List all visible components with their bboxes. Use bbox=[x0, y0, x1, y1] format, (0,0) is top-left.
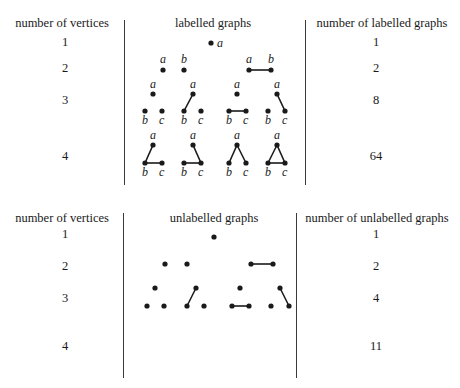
graph-edge bbox=[229, 145, 237, 163]
labelled-graph: abc bbox=[181, 128, 204, 179]
vertex-label: a bbox=[246, 52, 252, 66]
graph-vertex bbox=[229, 303, 234, 308]
graph-edge bbox=[237, 145, 246, 163]
vertex-label: a bbox=[190, 128, 196, 142]
vertex-label: c bbox=[282, 113, 288, 127]
vertex-label: b bbox=[181, 52, 187, 66]
unlabelled-graph bbox=[184, 285, 206, 308]
graph-vertex bbox=[286, 303, 291, 308]
graph-drawings: aabababcabcabcabcabcabcabcabc bbox=[0, 0, 460, 388]
graph-vertex bbox=[268, 303, 273, 308]
graph-edge bbox=[184, 94, 193, 111]
graph-vertex bbox=[234, 91, 239, 96]
vertex-label: a bbox=[217, 36, 223, 50]
unlabelled-graph bbox=[248, 261, 275, 266]
vertex-label: a bbox=[234, 77, 240, 91]
labelled-graph: abc bbox=[265, 77, 288, 127]
graph-edge bbox=[268, 145, 277, 163]
vertex-label: c bbox=[198, 165, 204, 179]
vertex-label: b bbox=[181, 113, 187, 127]
graph-edge bbox=[277, 145, 285, 163]
graph-edge bbox=[280, 288, 289, 306]
vertex-label: b bbox=[265, 113, 271, 127]
vertex-label: b bbox=[142, 113, 148, 127]
graph-vertex bbox=[270, 261, 275, 266]
graph-vertex bbox=[201, 303, 206, 308]
graph-vertex bbox=[184, 261, 189, 266]
labelled-graph: a bbox=[208, 36, 223, 50]
vertex-label: a bbox=[160, 52, 166, 66]
vertex-label: b bbox=[265, 165, 271, 179]
graph-vertex bbox=[246, 303, 251, 308]
labelled-graphs-layer: aabababcabcabcabcabcabcabcabc bbox=[142, 36, 288, 179]
graph-vertex bbox=[211, 234, 216, 239]
graph-vertex bbox=[190, 91, 195, 96]
vertex-label: c bbox=[282, 165, 288, 179]
vertex-label: a bbox=[150, 77, 156, 91]
graph-vertex bbox=[152, 285, 157, 290]
vertex-label: a bbox=[274, 77, 280, 91]
labelled-graph: ab bbox=[160, 52, 187, 73]
vertex-label: b bbox=[268, 52, 274, 66]
labelled-graph: abc bbox=[181, 77, 204, 127]
graph-edge bbox=[277, 94, 285, 111]
graph-vertex bbox=[237, 285, 242, 290]
vertex-label: a bbox=[234, 128, 240, 142]
vertex-label: c bbox=[243, 113, 249, 127]
graph-vertex bbox=[268, 67, 273, 72]
vertex-label: b bbox=[226, 165, 232, 179]
vertex-label: a bbox=[150, 128, 156, 142]
labelled-graph: abc bbox=[265, 128, 288, 179]
unlabelled-graph bbox=[144, 285, 166, 308]
vertex-label: c bbox=[159, 113, 165, 127]
vertex-label: b bbox=[226, 113, 232, 127]
graph-vertex bbox=[234, 142, 239, 147]
graph-vertex bbox=[190, 142, 195, 147]
graph-vertex bbox=[274, 142, 279, 147]
graph-vertex bbox=[248, 261, 253, 266]
labelled-graph: abc bbox=[226, 77, 249, 127]
graph-vertex bbox=[246, 67, 251, 72]
graph-vertex bbox=[150, 91, 155, 96]
graph-vertex bbox=[274, 91, 279, 96]
graph-vertex bbox=[150, 142, 155, 147]
graph-edge bbox=[145, 145, 153, 163]
vertex-label: c bbox=[198, 113, 204, 127]
graph-vertex bbox=[144, 303, 149, 308]
graph-vertex bbox=[184, 303, 189, 308]
graph-vertex bbox=[181, 67, 186, 72]
graph-vertex bbox=[208, 40, 213, 45]
vertex-label: a bbox=[190, 77, 196, 91]
graph-edge bbox=[193, 145, 201, 163]
vertex-label: b bbox=[181, 165, 187, 179]
vertex-label: c bbox=[159, 165, 165, 179]
vertex-label: a bbox=[274, 128, 280, 142]
labelled-graph: abc bbox=[142, 128, 165, 179]
labelled-graph: abc bbox=[142, 77, 165, 127]
graph-vertex bbox=[161, 303, 166, 308]
graph-vertex bbox=[193, 285, 198, 290]
unlabelled-graph bbox=[211, 234, 216, 239]
unlabelled-graph bbox=[268, 285, 291, 308]
unlabelled-graph bbox=[229, 285, 251, 308]
vertex-label: b bbox=[142, 165, 148, 179]
graph-vertex bbox=[162, 261, 167, 266]
unlabelled-graph bbox=[162, 261, 189, 266]
graph-edge bbox=[187, 288, 196, 306]
vertex-label: c bbox=[243, 165, 249, 179]
labelled-graph: ab bbox=[246, 52, 274, 73]
graph-vertex bbox=[277, 285, 282, 290]
labelled-graph: abc bbox=[226, 128, 249, 179]
unlabelled-graphs-layer bbox=[144, 234, 291, 308]
graph-vertex bbox=[160, 67, 165, 72]
